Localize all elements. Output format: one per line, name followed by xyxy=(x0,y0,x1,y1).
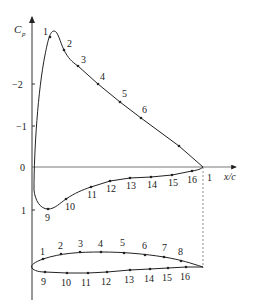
svg-text:11: 11 xyxy=(87,189,97,200)
svg-text:4: 4 xyxy=(98,238,103,249)
y-tick-label: 1 xyxy=(21,205,26,216)
svg-text:15: 15 xyxy=(162,272,172,283)
svg-text:13: 13 xyxy=(126,180,136,191)
svg-text:10: 10 xyxy=(61,277,71,288)
svg-text:16: 16 xyxy=(187,174,197,185)
airfoil-upper-points: 1 2 3 4 5 6 7 8 xyxy=(40,237,183,262)
svg-text:6: 6 xyxy=(142,104,147,115)
svg-text:5: 5 xyxy=(120,237,125,248)
svg-text:6: 6 xyxy=(142,240,147,251)
upper-surface-cp-curve xyxy=(34,31,203,190)
svg-text:3: 3 xyxy=(78,238,83,249)
svg-text:14: 14 xyxy=(147,179,157,190)
svg-text:4: 4 xyxy=(100,71,105,82)
svg-text:16: 16 xyxy=(180,271,190,282)
upper-cp-points: 1 2 3 4 5 6 xyxy=(43,26,180,147)
y-tick-label: 0 xyxy=(20,162,25,173)
trailing-edge-label: 1 xyxy=(207,172,212,183)
svg-text:14: 14 xyxy=(144,273,154,284)
svg-text:11: 11 xyxy=(81,277,91,288)
svg-text:2: 2 xyxy=(67,38,72,49)
airfoil-lower-points: 9 10 11 12 13 14 15 16 xyxy=(41,266,190,288)
y-axis-label: C xyxy=(14,23,22,35)
lower-cp-points: 9 10 11 12 13 14 15 16 xyxy=(45,170,197,223)
svg-text:1: 1 xyxy=(43,26,48,37)
x-axis-label: x/c xyxy=(223,171,236,182)
svg-text:1: 1 xyxy=(40,246,45,257)
svg-text:2: 2 xyxy=(58,240,63,251)
y-tick-label: −1 xyxy=(16,121,27,132)
svg-text:9: 9 xyxy=(41,276,46,287)
svg-text:12: 12 xyxy=(106,183,116,194)
svg-text:7: 7 xyxy=(162,242,167,253)
svg-text:10: 10 xyxy=(65,201,75,212)
svg-text:15: 15 xyxy=(168,177,178,188)
y-tick-label: −2 xyxy=(12,79,23,90)
pressure-distribution-diagram: −2 −1 0 1 C p x/c 1 1 2 3 4 5 6 9 10 11 … xyxy=(0,0,255,305)
svg-text:8: 8 xyxy=(178,246,183,257)
y-axis-label-subscript: p xyxy=(21,30,26,38)
svg-text:9: 9 xyxy=(45,212,50,223)
svg-text:3: 3 xyxy=(81,54,86,65)
svg-text:13: 13 xyxy=(124,274,134,285)
svg-text:12: 12 xyxy=(101,276,111,287)
lower-surface-cp-curve xyxy=(34,167,203,209)
svg-text:5: 5 xyxy=(122,88,127,99)
